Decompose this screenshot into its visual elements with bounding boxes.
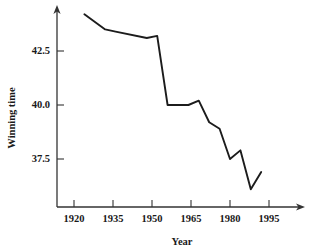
x-tick-label: 1980 (220, 213, 241, 224)
y-axis-title: Winning time (6, 87, 17, 149)
x-tick-label: 1920 (64, 213, 85, 224)
x-tick-label: 1950 (142, 213, 163, 224)
x-axis: 192019351950196519801995 (57, 200, 305, 224)
x-tick-label: 1965 (181, 213, 202, 224)
y-tick-label: 40.0 (32, 99, 50, 110)
chart-container: 37.540.042.5 192019351950196519801995 Ye… (0, 0, 314, 250)
line-chart: 37.540.042.5 192019351950196519801995 Ye… (0, 0, 314, 250)
y-axis: 37.540.042.5 (32, 5, 64, 207)
x-tick-group (74, 200, 269, 207)
y-tick-label: 37.5 (32, 153, 50, 164)
y-tick-label-group: 37.540.042.5 (32, 45, 50, 164)
x-axis-title: Year (172, 236, 193, 247)
y-tick-label: 42.5 (32, 45, 50, 56)
y-tick-group (57, 51, 64, 159)
x-tick-label: 1935 (103, 213, 124, 224)
data-series-winning-time (84, 14, 261, 189)
x-tick-label: 1995 (259, 213, 280, 224)
x-tick-label-group: 192019351950196519801995 (64, 213, 280, 224)
